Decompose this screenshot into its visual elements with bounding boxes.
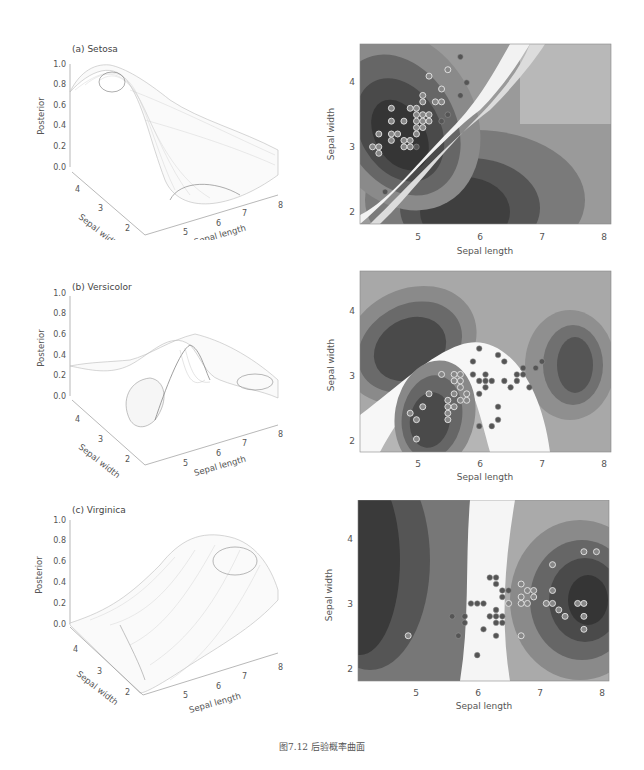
- figure-caption: 图7.12 后验概率曲面: [0, 740, 644, 753]
- svg-text:4: 4: [73, 645, 78, 654]
- x-axis-label: Sepal length: [457, 472, 514, 482]
- svg-text:0.2: 0.2: [53, 142, 66, 151]
- svg-text:1.0: 1.0: [53, 516, 66, 525]
- panel-title: (b) Versicolor: [72, 282, 132, 292]
- svg-text:0.4: 0.4: [53, 351, 66, 360]
- svg-text:0.8: 0.8: [53, 80, 66, 89]
- svg-text:6: 6: [216, 682, 221, 691]
- svg-text:2: 2: [125, 688, 130, 697]
- svg-text:2: 2: [125, 455, 130, 464]
- svg-text:0.6: 0.6: [53, 330, 66, 339]
- svg-text:6: 6: [477, 232, 483, 242]
- svg-text:8: 8: [601, 232, 607, 242]
- y-axis-label: Sepal width: [324, 569, 334, 622]
- svg-text:5: 5: [183, 228, 188, 237]
- panel-title: (c) Virginica: [72, 505, 126, 515]
- x-axis-label: Sepal length: [456, 701, 513, 711]
- svg-text:0.0: 0.0: [53, 163, 66, 172]
- z-axis-label: Posterior: [34, 556, 44, 594]
- svg-text:5: 5: [183, 459, 188, 468]
- svg-text:2: 2: [349, 207, 355, 217]
- svg-text:3: 3: [349, 371, 355, 381]
- svg-text:2: 2: [349, 436, 355, 446]
- y-axis-label: Sepal width: [326, 339, 336, 392]
- svg-text:8: 8: [278, 430, 283, 439]
- svg-text:5: 5: [183, 691, 188, 700]
- svg-text:0.8: 0.8: [53, 309, 66, 318]
- svg-text:1.0: 1.0: [53, 289, 66, 298]
- z-axis-label: Posterior: [36, 97, 46, 135]
- contour-virginica: 234 5678 Sepal length Sepal width: [320, 500, 620, 720]
- svg-text:0.6: 0.6: [53, 557, 66, 566]
- svg-text:8: 8: [601, 459, 607, 469]
- surface-setosa: (a) Setosa 0.00.20.4 0.60.81.0 Posterior…: [30, 30, 290, 240]
- x-axis-label: Sepal length: [457, 246, 514, 256]
- svg-text:8: 8: [599, 688, 605, 698]
- svg-text:0.6: 0.6: [53, 101, 66, 110]
- svg-text:7: 7: [242, 209, 247, 218]
- contour-setosa-svg: 234 5678 Sepal length Sepal width: [320, 30, 620, 260]
- svg-text:4: 4: [349, 77, 355, 87]
- svg-text:3: 3: [347, 599, 353, 609]
- svg-text:6: 6: [216, 219, 221, 228]
- svg-text:4: 4: [75, 185, 80, 194]
- svg-text:5: 5: [413, 688, 419, 698]
- svg-text:4: 4: [349, 306, 355, 316]
- svg-text:0.0: 0.0: [53, 620, 66, 629]
- svg-text:2: 2: [347, 664, 353, 674]
- svg-text:5: 5: [415, 459, 421, 469]
- svg-text:0.0: 0.0: [53, 392, 66, 401]
- svg-text:3: 3: [349, 142, 355, 152]
- contour-virginica-svg: 234 5678 Sepal length Sepal width: [320, 500, 620, 720]
- svg-text:7: 7: [242, 672, 247, 681]
- svg-text:3: 3: [97, 667, 102, 676]
- surface-setosa-svg: (a) Setosa 0.00.20.4 0.60.81.0 Posterior…: [30, 30, 290, 240]
- svg-text:8: 8: [278, 663, 283, 672]
- svg-text:4: 4: [75, 415, 80, 424]
- svg-text:6: 6: [477, 459, 483, 469]
- surface-virginica-svg: (c) Virginica 0.00.20.4 0.60.81.0 Poster…: [30, 505, 290, 715]
- svg-text:3: 3: [98, 435, 103, 444]
- contour-setosa: 234 5678 Sepal length Sepal width: [320, 30, 620, 260]
- z-axis-label: Posterior: [36, 329, 46, 367]
- svg-text:2: 2: [125, 224, 130, 233]
- y-axis-label: Sepal width: [326, 108, 336, 161]
- svg-text:0.2: 0.2: [53, 599, 66, 608]
- svg-text:6: 6: [475, 688, 481, 698]
- svg-text:4: 4: [347, 534, 353, 544]
- svg-text:6: 6: [216, 449, 221, 458]
- surface-versicolor: (b) Versicolor 0.00.20.4 0.60.81.0 Poste…: [30, 270, 290, 480]
- svg-text:5: 5: [415, 232, 421, 242]
- surface-versicolor-svg: (b) Versicolor 0.00.20.4 0.60.81.0 Poste…: [30, 270, 290, 480]
- panel-title: (a) Setosa: [72, 44, 118, 54]
- svg-text:7: 7: [539, 459, 545, 469]
- svg-text:3: 3: [98, 204, 103, 213]
- svg-text:0.8: 0.8: [53, 536, 66, 545]
- y-axis-label: Sepal width: [77, 442, 122, 480]
- svg-text:0.2: 0.2: [53, 371, 66, 380]
- svg-text:7: 7: [242, 439, 247, 448]
- svg-text:8: 8: [278, 201, 283, 210]
- svg-text:1.0: 1.0: [53, 60, 66, 69]
- svg-text:7: 7: [537, 688, 543, 698]
- x-axis-label: Sepal length: [188, 691, 242, 715]
- svg-text:7: 7: [539, 232, 545, 242]
- svg-text:0.4: 0.4: [53, 578, 66, 587]
- contour-versicolor: 234 5678 Sepal length Sepal width: [320, 265, 620, 485]
- y-axis-label: Sepal width: [77, 212, 122, 240]
- surface-virginica: (c) Virginica 0.00.20.4 0.60.81.0 Poster…: [30, 505, 290, 715]
- contour-versicolor-svg: 234 5678 Sepal length Sepal width: [320, 265, 620, 485]
- svg-text:0.4: 0.4: [53, 121, 66, 130]
